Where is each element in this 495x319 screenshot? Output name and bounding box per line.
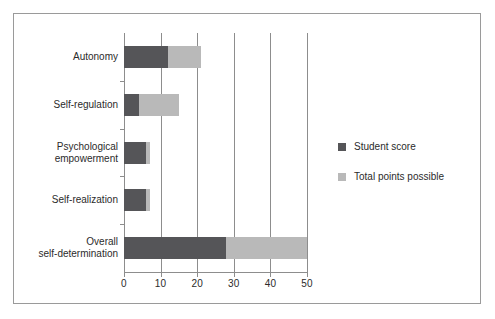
y-axis-label-overall-self-determination: Overallself-determination bbox=[10, 236, 118, 260]
bar-group bbox=[124, 237, 307, 259]
bar-group bbox=[124, 46, 201, 68]
x-tick-0 bbox=[124, 272, 125, 277]
chart-figure: AutonomySelf-regulationPsychologicalempo… bbox=[0, 0, 495, 319]
x-tick-50 bbox=[307, 272, 308, 277]
x-tick-40 bbox=[270, 272, 271, 277]
bar-segment-student-score bbox=[124, 142, 146, 164]
legend-label: Student score bbox=[354, 140, 416, 154]
bar-segment-total-points-possible bbox=[146, 189, 150, 211]
y-axis-label-self-regulation: Self-regulation bbox=[10, 99, 118, 111]
y-axis-category-labels: AutonomySelf-regulationPsychologicalempo… bbox=[8, 0, 118, 319]
chart-legend: Student scoreTotal points possible bbox=[338, 140, 478, 200]
x-tick-30 bbox=[234, 272, 235, 277]
x-tick-label-20: 20 bbox=[177, 278, 217, 289]
label-line: Psychological bbox=[10, 141, 118, 153]
x-tick-20 bbox=[197, 272, 198, 277]
label-line: Autonomy bbox=[10, 51, 118, 63]
y-tick-4 bbox=[120, 224, 125, 225]
bar-segment-student-score bbox=[124, 94, 139, 116]
legend-item[interactable]: Student score bbox=[338, 140, 478, 154]
bar-segment-student-score bbox=[124, 189, 146, 211]
label-line: Self-realization bbox=[10, 194, 118, 206]
plot-area bbox=[124, 33, 307, 272]
x-tick-label-50: 50 bbox=[287, 278, 327, 289]
y-tick-3 bbox=[120, 176, 125, 177]
bar-segment-total-points-possible bbox=[168, 46, 201, 68]
legend-item[interactable]: Total points possible bbox=[338, 170, 478, 184]
bar-segment-student-score bbox=[124, 237, 226, 259]
bar-group bbox=[124, 94, 179, 116]
bar-group bbox=[124, 189, 150, 211]
legend-swatch-light bbox=[338, 173, 346, 181]
bar-segment-total-points-possible bbox=[146, 142, 150, 164]
y-tick-2 bbox=[120, 129, 125, 130]
label-line: self-determination bbox=[10, 248, 118, 260]
bar-segment-total-points-possible bbox=[139, 94, 179, 116]
gridline-x-50 bbox=[307, 33, 308, 272]
bar-segment-student-score bbox=[124, 46, 168, 68]
bar-group bbox=[124, 142, 150, 164]
label-line: Self-regulation bbox=[10, 99, 118, 111]
x-tick-label-30: 30 bbox=[214, 278, 254, 289]
y-axis-label-psychological-empowerment: Psychologicalempowerment bbox=[10, 141, 118, 165]
legend-label: Total points possible bbox=[354, 170, 444, 184]
bar-segment-total-points-possible bbox=[226, 237, 307, 259]
label-line: Overall bbox=[10, 236, 118, 248]
y-tick-1 bbox=[120, 81, 125, 82]
y-axis-label-self-realization: Self-realization bbox=[10, 194, 118, 206]
x-tick-label-0: 0 bbox=[104, 278, 144, 289]
x-axis-line bbox=[124, 272, 308, 273]
y-axis-label-autonomy: Autonomy bbox=[10, 51, 118, 63]
x-tick-label-40: 40 bbox=[250, 278, 290, 289]
x-tick-label-10: 10 bbox=[141, 278, 181, 289]
x-tick-10 bbox=[161, 272, 162, 277]
label-line: empowerment bbox=[10, 153, 118, 165]
legend-swatch-dark bbox=[338, 143, 346, 151]
